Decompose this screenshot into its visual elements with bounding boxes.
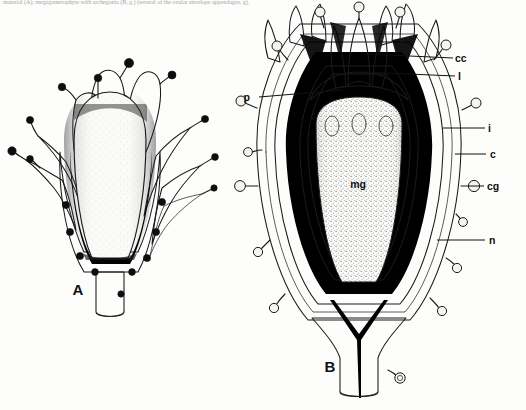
capitate-gland: [62, 201, 69, 208]
capitate-gland: [456, 214, 467, 226]
capitate-gland: [430, 298, 447, 316]
label-mg: mg: [350, 178, 366, 190]
capitate-gland: [395, 7, 405, 28]
figure-a-ovule-body: [60, 86, 160, 271]
capitate-gland: [160, 71, 176, 84]
capitate-gland: [143, 254, 150, 261]
figure-label-b: B: [325, 358, 336, 375]
capitate-gland: [190, 115, 209, 128]
capitate-gland: [58, 83, 76, 100]
illustration-plate: material (A); megagametophyte with arche…: [0, 0, 526, 410]
plate-svg: p cc l i c cg n mg A B: [0, 0, 526, 410]
capitate-gland: [92, 269, 99, 276]
capitate-gland: [76, 252, 83, 259]
capitate-gland: [158, 198, 165, 205]
figure-label-a: A: [73, 281, 84, 298]
capitate-gland: [129, 269, 136, 276]
capitate-gland: [388, 370, 405, 383]
label-i: i: [488, 122, 491, 134]
capitate-gland: [269, 294, 285, 313]
capitate-gland: [66, 228, 73, 235]
figure-b: [235, 2, 481, 398]
capitate-gland: [253, 240, 270, 257]
vascular-strand: [330, 300, 388, 398]
label-p: p: [244, 91, 250, 103]
label-n: n: [489, 234, 495, 246]
capitate-gland: [152, 228, 159, 235]
capitate-gland: [354, 2, 364, 18]
figure-b-base-stalk: [312, 300, 406, 398]
capitate-gland: [200, 154, 218, 166]
capitate-gland: [446, 258, 462, 273]
capitate-gland: [8, 147, 26, 160]
label-c: c: [490, 148, 496, 160]
label-l: l: [458, 70, 461, 82]
capitate-gland: [462, 98, 481, 110]
figure-a: [8, 58, 219, 316]
capitate-gland: [26, 116, 38, 136]
capitate-gland: [120, 58, 134, 78]
label-cc: cc: [455, 52, 467, 64]
capitate-gland: [235, 181, 258, 192]
capitate-gland: [202, 185, 217, 194]
capitate-gland: [272, 41, 288, 60]
capitate-gland: [118, 291, 124, 297]
capitate-gland: [244, 148, 262, 157]
label-cg: cg: [487, 180, 499, 192]
